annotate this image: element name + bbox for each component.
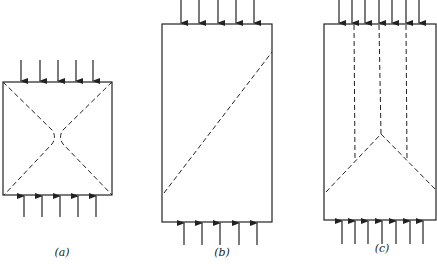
panel-c — [324, 0, 436, 244]
panel-label-b: (b) — [214, 246, 230, 259]
panel-label-c: (c) — [375, 242, 390, 255]
load-arrows-bottom-c — [342, 221, 423, 244]
panel-label-a: (a) — [54, 246, 69, 259]
panel-b — [162, 0, 272, 245]
load-arrows-top-c — [339, 0, 419, 23]
compression-failure-diagram — [0, 0, 437, 264]
load-arrows-bottom-a — [24, 196, 96, 217]
specimen-b — [162, 24, 272, 222]
load-arrows-bottom-b — [184, 223, 257, 245]
failure-cracks-c — [326, 25, 436, 192]
failure-plane-b — [164, 52, 272, 193]
load-arrows-top-a — [21, 60, 93, 81]
failure-planes-a — [3, 82, 112, 195]
panel-a — [3, 60, 112, 217]
load-arrows-top-b — [181, 0, 254, 23]
